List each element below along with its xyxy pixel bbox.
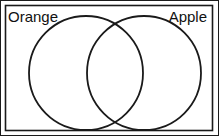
set-label-apple: Apple [169, 9, 207, 24]
set-label-orange: Orange [8, 9, 58, 24]
set-circle-orange [29, 16, 143, 130]
set-circle-apple [87, 16, 201, 130]
